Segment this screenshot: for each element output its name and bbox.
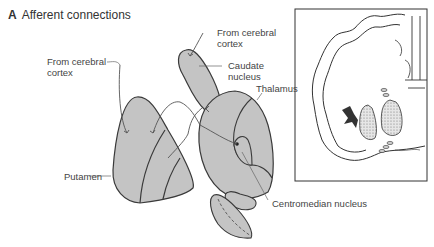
label-centromedian-nucleus: Centromedian nucleus	[272, 198, 367, 209]
label-caudate-nucleus: Caudate nucleus	[228, 60, 264, 82]
putamen-shape	[113, 97, 193, 203]
label-thalamus: Thalamus	[256, 83, 298, 94]
lower-structures	[211, 192, 257, 239]
inset-brain-section	[295, 9, 427, 181]
label-cortex-left: From cerebral cortex	[47, 56, 106, 78]
label-putamen: Putamen	[64, 171, 102, 182]
label-cortex-top: From cerebral cortex	[217, 27, 276, 49]
thalamus-shape	[199, 91, 273, 199]
